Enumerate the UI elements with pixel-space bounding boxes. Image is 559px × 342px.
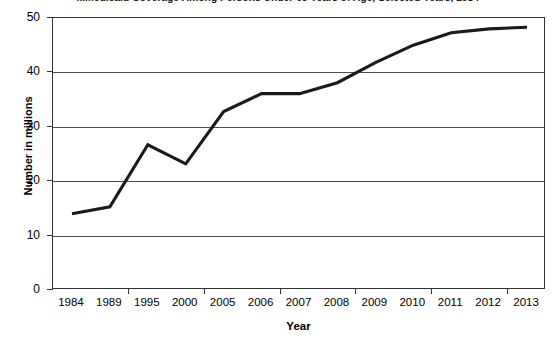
x-axis-label: Year [52,320,545,332]
y-axis-tick-label: 30 [8,120,40,132]
x-axis-tick-label: 2013 [503,296,549,309]
chart-figure: ...Medicaid Coverage Among Persons Under… [0,0,559,342]
y-axis-tick-label: 20 [8,174,40,186]
x-axis-tick-mark [280,289,281,294]
data-series-medicaid-coverage [53,18,546,290]
y-axis-tick-label: 10 [8,229,40,241]
x-axis-tick-mark [431,289,432,294]
y-axis-label: Number in millions [22,56,34,236]
x-axis-tick-mark [507,289,508,294]
y-axis-tick-label: 40 [8,65,40,77]
x-axis-tick-mark [128,289,129,294]
series-line-path [72,27,527,214]
plot-area [52,17,545,289]
x-axis-tick-mark [355,289,356,294]
y-axis-tick-label: 50 [8,11,40,23]
x-axis-tick-mark [204,289,205,294]
y-axis-tick-label: 0 [8,283,40,295]
chart-title: ...Medicaid Coverage Among Persons Under… [0,0,559,5]
